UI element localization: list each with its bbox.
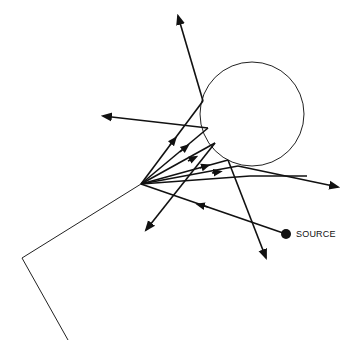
fan-rays [141,101,250,184]
source-label: SOURCE [296,229,336,239]
source-dot [281,229,291,239]
scattered-rays [103,16,338,258]
observer-line [22,184,141,340]
ray-diagram [0,0,357,360]
sphere-outline [200,62,304,166]
